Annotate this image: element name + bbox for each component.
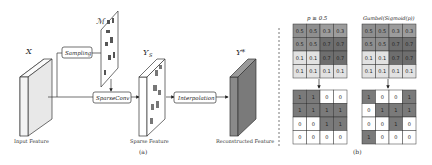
svg-text:0.3: 0.3: [336, 28, 344, 34]
svg-text:0: 0: [394, 134, 397, 140]
svg-text:0: 0: [325, 94, 328, 100]
svg-text:0.5: 0.5: [378, 41, 386, 47]
left-binary-matrix: 1100111100110000: [293, 90, 347, 144]
svg-text:0.1: 0.1: [378, 68, 386, 74]
interpolation-box: Interpolation: [174, 92, 216, 103]
left-title: p ≥ 0.5: [307, 15, 328, 22]
svg-text:1: 1: [367, 134, 370, 140]
svg-text:0: 0: [339, 134, 342, 140]
svg-text:0.7: 0.7: [392, 55, 400, 61]
svg-text:0: 0: [312, 121, 315, 127]
svg-text:1: 1: [325, 107, 328, 113]
svg-text:0.3: 0.3: [392, 28, 400, 34]
svg-text:0.5: 0.5: [309, 41, 317, 47]
svg-text:1: 1: [367, 94, 370, 100]
svg-text:0: 0: [381, 121, 384, 127]
left-prob-matrix: 0.50.50.30.30.50.50.70.70.10.10.70.70.10…: [293, 24, 347, 78]
svg-text:0.1: 0.1: [296, 68, 304, 74]
svg-text:1: 1: [394, 121, 397, 127]
reconstructed-feature-block: [230, 59, 256, 136]
svg-text:0: 0: [381, 94, 384, 100]
matrices: 0.50.50.30.30.50.50.70.70.10.10.70.70.10…: [293, 24, 416, 144]
svg-text:0.7: 0.7: [323, 55, 331, 61]
svg-text:Sampling: Sampling: [65, 50, 92, 57]
caption-a: (a): [139, 148, 147, 155]
svg-text:1: 1: [339, 107, 342, 113]
right-title: Gumbel(Sigmoid(p)): [363, 15, 415, 22]
svg-text:0: 0: [298, 134, 301, 140]
svg-text:0.5: 0.5: [365, 41, 373, 47]
input-feature-block: [20, 59, 52, 136]
recon-label: Reconstructed Feature: [216, 138, 274, 144]
svg-text:0.7: 0.7: [405, 55, 413, 61]
svg-text:1: 1: [298, 94, 301, 100]
svg-text:1: 1: [312, 94, 315, 100]
svg-text:1: 1: [325, 121, 328, 127]
svg-text:0: 0: [381, 134, 384, 140]
svg-text:1: 1: [394, 107, 397, 113]
sampling-box: Sampling: [62, 47, 92, 58]
svg-text:0.5: 0.5: [309, 28, 317, 34]
diagram-canvas: X Input Feature Sampling ℳ SparseConv: [0, 0, 432, 165]
svg-text:0.5: 0.5: [296, 28, 304, 34]
recon-symbol: Y*: [236, 48, 245, 57]
svg-text:0: 0: [325, 134, 328, 140]
svg-text:0.1: 0.1: [365, 68, 373, 74]
input-symbol: X: [25, 47, 32, 56]
svg-text:0.7: 0.7: [405, 41, 413, 47]
svg-text:0.5: 0.5: [296, 41, 304, 47]
svg-text:0.5: 0.5: [365, 28, 373, 34]
svg-text:0.1: 0.1: [309, 55, 317, 61]
svg-text:0.7: 0.7: [336, 41, 344, 47]
input-label: Input Feature: [14, 138, 49, 145]
svg-text:1: 1: [408, 107, 411, 113]
sparse-label: Sparse Feature: [130, 138, 169, 145]
sparse-feature-block: [139, 59, 165, 136]
svg-text:0.1: 0.1: [336, 68, 344, 74]
svg-text:0.1: 0.1: [392, 68, 400, 74]
svg-text:0.1: 0.1: [405, 68, 413, 74]
sparseconv-box: SparseConv: [93, 92, 131, 103]
svg-text:0: 0: [298, 121, 301, 127]
svg-text:1: 1: [381, 107, 384, 113]
svg-text:0: 0: [339, 94, 342, 100]
svg-text:0: 0: [408, 121, 411, 127]
svg-text:0.1: 0.1: [296, 55, 304, 61]
right-prob-matrix: 0.50.50.30.30.50.50.70.70.10.10.70.70.10…: [362, 24, 416, 78]
svg-text:1: 1: [312, 107, 315, 113]
caption-b: (b): [353, 148, 362, 155]
svg-text:0.7: 0.7: [392, 41, 400, 47]
svg-text:0.5: 0.5: [378, 28, 386, 34]
svg-text:Interpolation: Interpolation: [177, 95, 215, 102]
svg-text:0.1: 0.1: [309, 68, 317, 74]
svg-text:SparseConv: SparseConv: [96, 95, 130, 102]
right-binary-matrix: 1001011100101000: [362, 90, 416, 144]
mask-symbol: ℳ: [96, 17, 106, 26]
svg-text:0: 0: [394, 94, 397, 100]
svg-text:0.3: 0.3: [405, 28, 413, 34]
svg-text:0.7: 0.7: [336, 55, 344, 61]
svg-text:0.1: 0.1: [323, 68, 331, 74]
svg-text:0.7: 0.7: [323, 41, 331, 47]
svg-text:1: 1: [408, 94, 411, 100]
svg-text:0: 0: [408, 134, 411, 140]
svg-text:0.3: 0.3: [323, 28, 331, 34]
svg-text:0: 0: [367, 121, 370, 127]
svg-text:0.1: 0.1: [365, 55, 373, 61]
svg-text:0: 0: [312, 134, 315, 140]
svg-text:0: 0: [367, 107, 370, 113]
svg-text:0.1: 0.1: [378, 55, 386, 61]
svg-text:1: 1: [339, 121, 342, 127]
svg-text:S: S: [149, 52, 153, 58]
svg-text:1: 1: [298, 107, 301, 113]
